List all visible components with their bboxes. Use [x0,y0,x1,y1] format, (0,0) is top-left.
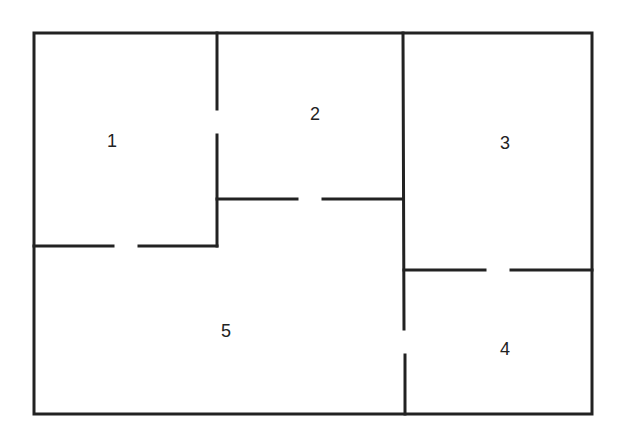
room-label-1: 1 [107,131,117,151]
room-label-5: 5 [221,321,231,341]
room-label-3: 3 [500,133,510,153]
room-label-2: 2 [310,104,320,124]
floor-plan-diagram: 1 2 3 4 5 [0,0,620,434]
room-label-4: 4 [500,339,510,359]
wall-east-upper [403,33,404,329]
